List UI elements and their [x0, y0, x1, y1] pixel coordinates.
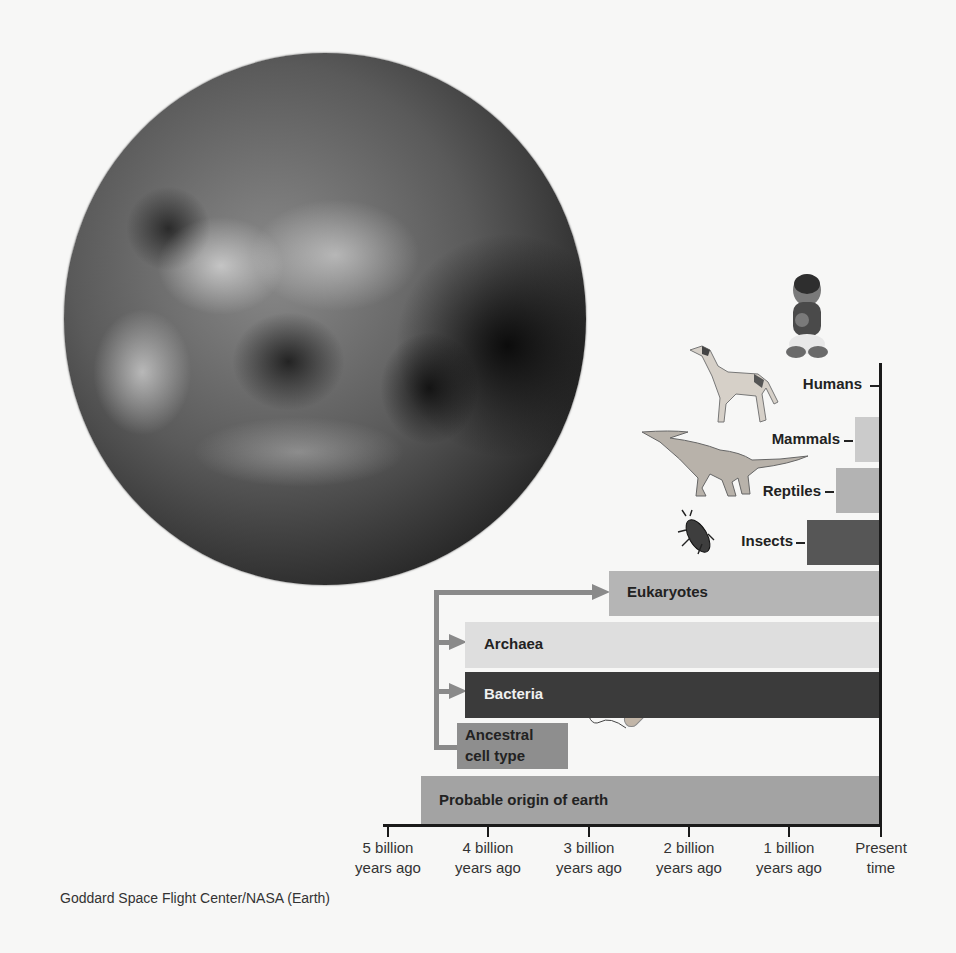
bar-bacteria: Bacteria	[465, 672, 881, 718]
mammals-dash	[844, 440, 853, 442]
tick-present	[880, 827, 882, 837]
tick-1-billion	[788, 827, 790, 837]
bar-label-eukaryotes: Eukaryotes	[627, 583, 708, 600]
bar-insects	[807, 520, 881, 565]
tick-label-5-billion: 5 billion years ago	[333, 838, 443, 878]
tree-connector-to-eukaryotes	[434, 590, 594, 595]
photo-credit: Goddard Space Flight Center/NASA (Earth)	[60, 890, 330, 906]
tick-label-line2: years ago	[634, 858, 744, 878]
bar-label-bacteria: Bacteria	[484, 685, 543, 702]
dog-mammal-icon	[688, 342, 788, 428]
tick-label-3-billion: 3 billion years ago	[534, 838, 644, 878]
tick-label-line1: 4 billion	[433, 838, 543, 858]
label-humans: Humans	[803, 375, 862, 392]
bar-label-ancestral-line2: cell type	[465, 746, 525, 766]
tick-label-line2: years ago	[433, 858, 543, 878]
tick-label-present: Present time	[826, 838, 936, 878]
tree-connector-to-ancestral	[434, 745, 458, 750]
tick-label-line1: Present	[826, 838, 936, 858]
label-insects: Insects	[741, 532, 793, 549]
bar-eukaryotes: Eukaryotes	[609, 571, 881, 616]
beetle-insect-icon	[676, 508, 716, 558]
time-axis-horizontal	[383, 824, 882, 827]
tick-3-billion	[588, 827, 590, 837]
tick-label-2-billion: 2 billion years ago	[634, 838, 744, 878]
bar-label-ancestral-line1: Ancestral	[465, 725, 533, 745]
label-mammals: Mammals	[772, 430, 840, 447]
tick-label-4-billion: 4 billion years ago	[433, 838, 543, 878]
bar-label-archaea: Archaea	[484, 635, 543, 652]
insects-dash	[796, 542, 805, 544]
tick-label-line2: time	[826, 858, 936, 878]
label-reptiles: Reptiles	[763, 482, 821, 499]
tree-connector-vertical	[434, 590, 439, 750]
bar-label-origin: Probable origin of earth	[439, 791, 608, 808]
time-axis-vertical	[879, 363, 882, 827]
tick-label-line1: 5 billion	[333, 838, 443, 858]
human-baby-icon	[782, 262, 832, 366]
bar-probable-origin-of-earth: Probable origin of earth	[421, 776, 881, 824]
tick-label-line2: years ago	[534, 858, 644, 878]
bar-mammals	[855, 417, 881, 462]
bar-archaea: Archaea	[465, 622, 881, 668]
tree-connector-to-archaea	[434, 640, 450, 645]
arrow-to-eukaryotes	[592, 584, 610, 600]
humans-dash	[870, 385, 879, 387]
bar-reptiles	[836, 468, 881, 513]
tick-label-line1: 3 billion	[534, 838, 644, 858]
tick-label-line1: 2 billion	[634, 838, 744, 858]
tick-4-billion	[487, 827, 489, 837]
reptiles-dash	[825, 491, 834, 493]
bar-ancestral-cell-type: Ancestral cell type	[457, 723, 568, 769]
tick-2-billion	[688, 827, 690, 837]
tick-label-line2: years ago	[333, 858, 443, 878]
earth-photo	[64, 53, 586, 585]
tick-5-billion	[387, 827, 389, 837]
tree-connector-to-bacteria	[434, 689, 450, 694]
